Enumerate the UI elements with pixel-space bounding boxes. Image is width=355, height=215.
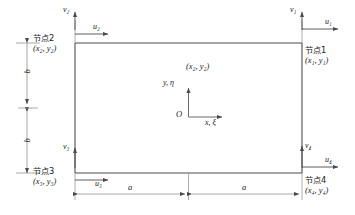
node1-name: 节点1 [305, 45, 326, 55]
local-y-axis-label: y, η [163, 79, 174, 87]
dimension-b-lower-label: b [23, 130, 32, 150]
node1-u-label: u₁ [325, 18, 332, 26]
node4-label: 节点4 (x₄, y₄) [305, 176, 328, 195]
node2-label: 节点2 (x₂, y₂) [33, 34, 56, 53]
local-x-axis-label: x, ξ [205, 119, 216, 127]
node1-v-label: v₁ [290, 6, 296, 14]
node2-v-label: v₂ [63, 6, 69, 14]
node2-u-label: u₂ [93, 23, 100, 31]
node4-name: 节点4 [305, 175, 326, 185]
node3-dof-arrows [75, 148, 108, 180]
node1-dof-arrows [302, 12, 338, 30]
origin-label: O [176, 110, 182, 119]
node2-dof-arrows [75, 12, 108, 34]
node3-coord: (x₃, y₃) [33, 177, 56, 186]
dimension-b-upper-label: b [23, 61, 32, 81]
node3-label: 节点3 (x₃, y₃) [33, 167, 56, 186]
node3-v-label: v₃ [63, 143, 69, 151]
dimension-a-right-label: a [242, 183, 246, 192]
local-coordinate-axes [189, 88, 223, 117]
node2-coord: (x₂, y₂) [33, 44, 56, 53]
center-point-coord-label: (x₂, y₂) [186, 62, 209, 71]
node4-v-label: v₄ [305, 142, 311, 150]
dimension-a-left-label: a [128, 183, 132, 192]
node1-label: 节点1 (x₁, y₁) [305, 46, 328, 65]
node4-coord: (x₄, y₄) [305, 186, 328, 195]
node1-coord: (x₁, y₁) [305, 56, 328, 65]
element-diagram-figure: 节点2 (x₂, y₂) 节点1 (x₁, y₁) 节点3 (x₃, y₃) 节… [0, 0, 355, 215]
node3-name: 节点3 [33, 166, 54, 176]
node3-u-label: u₃ [95, 180, 102, 188]
node2-name: 节点2 [33, 33, 54, 43]
node4-u-label: u₄ [325, 156, 332, 164]
